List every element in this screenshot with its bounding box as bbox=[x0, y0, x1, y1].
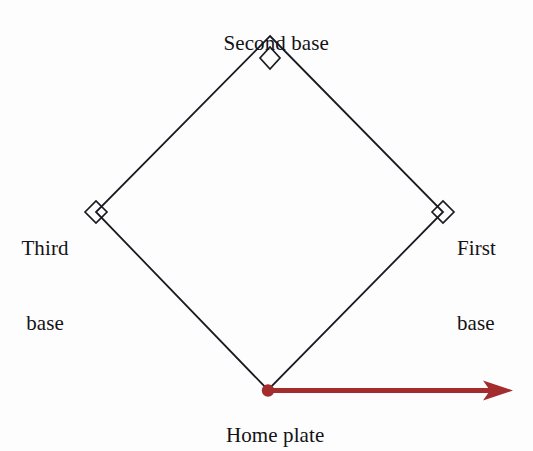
label-first-base-line2: base bbox=[457, 311, 533, 336]
label-third-base-line2: base bbox=[0, 311, 90, 336]
label-second-base-text: Second base bbox=[223, 31, 329, 56]
diamond-outline-group bbox=[96, 36, 443, 390]
label-first-base: First base bbox=[457, 186, 533, 386]
label-home-plate: Home plate bbox=[0, 398, 533, 451]
label-second-base: Second base bbox=[0, 6, 533, 81]
label-third-base-line1: Third bbox=[0, 236, 90, 261]
diamond-outline bbox=[96, 36, 443, 390]
label-home-plate-text: Home plate bbox=[226, 423, 324, 448]
label-first-base-line1: First bbox=[457, 236, 533, 261]
home-plate-point-marker bbox=[262, 384, 274, 396]
label-third-base: Third base bbox=[0, 186, 90, 386]
